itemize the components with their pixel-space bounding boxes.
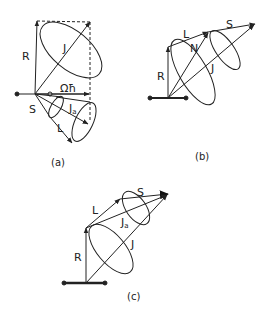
label-b-J: J	[210, 62, 214, 75]
j-precession-ellipse	[30, 12, 111, 89]
label-c-R: R	[74, 251, 82, 264]
label-c-Ja: Ja	[120, 216, 129, 230]
label-b-R: R	[157, 70, 165, 83]
panel-c	[62, 187, 168, 285]
label-c-S: S	[137, 186, 144, 199]
label-b-S: S	[226, 18, 233, 31]
label-c-J: J	[130, 238, 134, 251]
label-c-L: L	[92, 204, 99, 217]
label-a-L: L	[57, 122, 64, 135]
panel-b	[148, 24, 255, 111]
label-a-S: S	[29, 103, 36, 116]
caption-c: (c)	[127, 291, 140, 302]
label-a-J: J	[62, 42, 66, 55]
nucleus-left	[62, 281, 66, 285]
s-vector	[35, 94, 50, 117]
panel-a	[15, 12, 112, 145]
nucleus-left	[148, 96, 152, 100]
s-vector	[120, 194, 168, 199]
caption-b: (b)	[195, 151, 209, 162]
label-a-Ja: Ja	[68, 102, 77, 116]
nucleus-left	[15, 92, 19, 96]
label-b-L: L	[183, 28, 190, 41]
l-cone-edge	[56, 97, 90, 102]
dashed-top	[37, 21, 90, 22]
nucleus-right	[103, 281, 107, 285]
j-vector	[86, 195, 167, 283]
ja-vector	[35, 94, 88, 124]
label-a-R: R	[22, 50, 30, 63]
label-b-N: N	[190, 42, 198, 55]
nucleus-right	[184, 96, 188, 100]
caption-a: (a)	[51, 157, 65, 168]
r-vector	[35, 21, 37, 94]
coupling-diagram: R J Ωħ S Ja L (a) R L N S J (b) L S Ja J…	[0, 0, 270, 315]
label-a-omega: Ωħ	[60, 82, 76, 95]
